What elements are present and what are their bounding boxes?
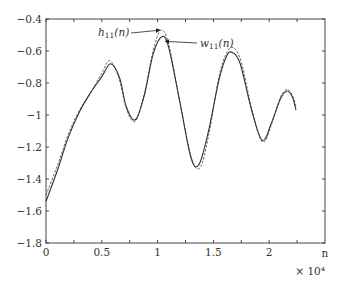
annotation-w11: w11(n) <box>200 37 234 51</box>
y-tick-label: −0.6 <box>17 45 43 57</box>
y-tick-label: −0.8 <box>17 77 43 89</box>
annotation-h11: h11(n) <box>98 26 129 40</box>
y-tick-label: −1 <box>27 109 42 121</box>
annotation-arrow <box>165 41 197 43</box>
x-tick-label: 0 <box>43 246 50 258</box>
x-axis-multiplier: × 10⁴ <box>295 265 325 277</box>
y-axis: −0.4−0.6−0.8−1−1.2−1.4−1.6−1.8 <box>17 13 326 249</box>
y-tick-label: −1.6 <box>17 205 43 217</box>
y-tick-label: −1.4 <box>17 173 43 185</box>
line-chart: −0.4−0.6−0.8−1−1.2−1.4−1.6−1.8 00.511.52… <box>0 0 345 286</box>
x-axis: 00.511.52 <box>43 19 297 258</box>
y-tick-label: −1.8 <box>17 237 43 249</box>
series-line-w11n <box>46 36 296 201</box>
annotation-arrow <box>131 30 160 33</box>
y-tick-label: −0.4 <box>17 13 43 25</box>
x-tick-label: 1.5 <box>205 246 222 258</box>
y-tick-label: −1.2 <box>17 141 43 153</box>
x-tick-label: 2 <box>266 246 273 258</box>
x-tick-label: 0.5 <box>93 246 110 258</box>
x-axis-label: n <box>322 247 329 259</box>
x-tick-label: 1 <box>154 246 161 258</box>
series-group <box>46 30 296 201</box>
